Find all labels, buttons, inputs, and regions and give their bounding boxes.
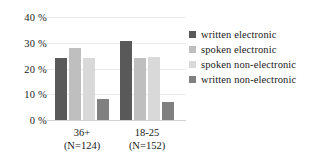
- x-axis-baseline: [47, 120, 186, 121]
- legend-item[interactable]: written electronic: [189, 28, 296, 42]
- legend-swatch-icon: [189, 31, 196, 38]
- group-label-line2: (N=124): [49, 139, 115, 152]
- bar-group: [120, 17, 174, 120]
- legend-swatch-icon: [189, 46, 196, 53]
- bar: [69, 48, 81, 120]
- y-axis-tick-label: 30 %: [3, 37, 47, 48]
- bar: [97, 99, 109, 120]
- legend-item-label: spoken electronic: [201, 44, 276, 55]
- group-label-line1: 18-25: [135, 127, 160, 138]
- legend-swatch-icon: [189, 61, 196, 68]
- group-label-line2: (N=152): [114, 139, 180, 152]
- plot-area: [47, 17, 186, 121]
- bar: [162, 102, 174, 120]
- legend-item[interactable]: written non-electronic: [189, 73, 296, 87]
- group-label-line1: 36+: [74, 127, 90, 138]
- y-axis-tick-label: 10 %: [3, 89, 47, 100]
- bar: [83, 58, 95, 120]
- x-axis-group-label: 36+(N=124): [49, 126, 115, 152]
- bar-group: [55, 17, 109, 120]
- x-axis-group-label: 18-25(N=152): [114, 126, 180, 152]
- legend-item[interactable]: spoken non-electronic: [189, 58, 296, 72]
- legend-item-label: written electronic: [201, 29, 277, 40]
- chart-legend: written electronicspoken electronicspoke…: [189, 28, 296, 88]
- y-axis-tick-label: 40 %: [3, 12, 47, 23]
- y-axis-tick-label: 0 %: [3, 115, 47, 126]
- y-axis-tick-label: 20 %: [3, 63, 47, 74]
- bar: [148, 57, 160, 120]
- legend-swatch-icon: [189, 76, 196, 83]
- legend-item-label: spoken non-electronic: [201, 59, 296, 70]
- legend-item[interactable]: spoken electronic: [189, 43, 296, 57]
- bar: [134, 58, 146, 120]
- bar: [55, 58, 67, 120]
- bar: [120, 41, 132, 120]
- legend-item-label: written non-electronic: [201, 74, 296, 85]
- grouped-bar-chart: 0 %10 %20 %30 %40 % 36+(N=124)18-25(N=15…: [0, 0, 331, 167]
